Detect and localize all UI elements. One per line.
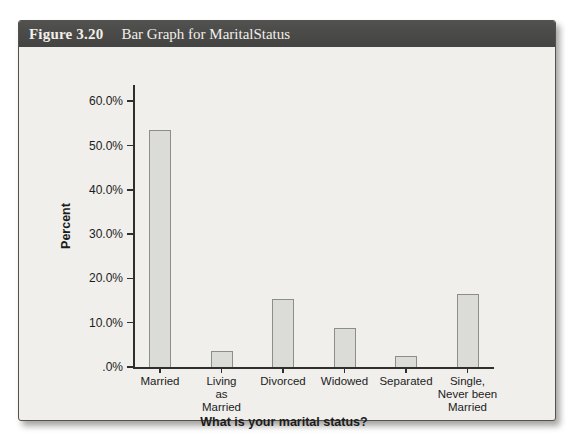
bar-chart: Percent .0%10.0%20.0%30.0%40.0%50.0%60.0… xyxy=(19,47,555,420)
x-axis-line xyxy=(133,367,494,369)
y-tick-label: 30.0% xyxy=(71,227,123,241)
x-tick-mark xyxy=(467,367,469,373)
figure-number-label: Figure 3.20 xyxy=(29,26,103,43)
bar-married xyxy=(149,130,171,367)
y-tick-label: 40.0% xyxy=(71,183,123,197)
y-tick-label: 60.0% xyxy=(71,94,123,108)
x-tick-mark xyxy=(405,367,407,373)
bar-divorced xyxy=(272,299,294,367)
bar-separated xyxy=(395,356,417,367)
y-tick-label: 10.0% xyxy=(71,316,123,330)
bar-living-as-married xyxy=(211,351,233,367)
figure-header: Figure 3.20 Bar Graph for MaritalStatus xyxy=(19,21,555,47)
figure-card: Figure 3.20 Bar Graph for MaritalStatus … xyxy=(18,20,556,421)
category-label: Single, Never been Married xyxy=(420,375,516,414)
x-tick-mark xyxy=(282,367,284,373)
y-tick-label: .0% xyxy=(71,360,123,374)
bar-widowed xyxy=(334,328,356,367)
x-tick-mark xyxy=(344,367,346,373)
x-axis-title: What is your marital status? xyxy=(19,415,549,429)
y-axis-line xyxy=(133,85,135,367)
x-tick-mark xyxy=(221,367,223,373)
bar-single-never-been-married xyxy=(457,294,479,367)
y-tick-label: 50.0% xyxy=(71,139,123,153)
figure-title: Bar Graph for MaritalStatus xyxy=(121,26,290,43)
x-tick-mark xyxy=(159,367,161,373)
y-tick-label: 20.0% xyxy=(71,271,123,285)
